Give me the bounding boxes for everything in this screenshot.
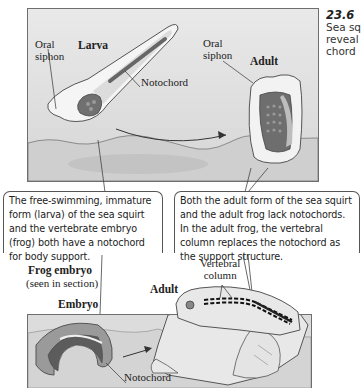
adult-oral-siphon-line-2: siphon bbox=[203, 49, 232, 61]
vertebral-column-line-2: column bbox=[200, 269, 240, 281]
frog-panel: Notochord bbox=[27, 314, 312, 388]
larva-oral-siphon-label: Oral siphon bbox=[35, 38, 64, 62]
embryo-notochord-label: Notochord bbox=[124, 371, 171, 383]
adult-sea-squirt-title: Adult bbox=[250, 55, 278, 67]
callout-larva-embryo: The free-swimming, immature form (larva)… bbox=[3, 191, 163, 253]
larva-oral-siphon-line-1: Oral bbox=[35, 38, 64, 50]
vertebral-column-label: Vertebral column bbox=[200, 257, 240, 281]
larva-notochord-label: Notochord bbox=[141, 76, 188, 88]
figure-caption-line-3: chord bbox=[326, 45, 356, 57]
adult-oral-siphon-label: Oral siphon bbox=[203, 37, 232, 61]
sea-squirt-illustration bbox=[28, 9, 318, 181]
adult-oral-siphon-line-1: Oral bbox=[203, 37, 232, 49]
figure-caption-line-1: Sea sq bbox=[326, 21, 361, 33]
larva-oral-siphon-line-2: siphon bbox=[35, 50, 64, 62]
frog-embryo-title: Frog embryo bbox=[28, 264, 92, 276]
adult-frog-title: Adult bbox=[150, 283, 178, 295]
vertebral-column-line-1: Vertebral bbox=[200, 257, 240, 269]
callout-adult: Both the adult form of the sea squirt an… bbox=[174, 191, 360, 253]
sea-squirt-panel: Oral siphon Larva Notochord Oral siphon … bbox=[27, 8, 319, 182]
figure-caption-line-2: reveal bbox=[326, 33, 359, 45]
larva-title: Larva bbox=[78, 39, 108, 51]
figure-number: 23.6 bbox=[326, 8, 354, 22]
embryo-title: Embryo bbox=[58, 298, 98, 310]
frog-embryo-subtitle: (seen in section) bbox=[26, 277, 98, 289]
